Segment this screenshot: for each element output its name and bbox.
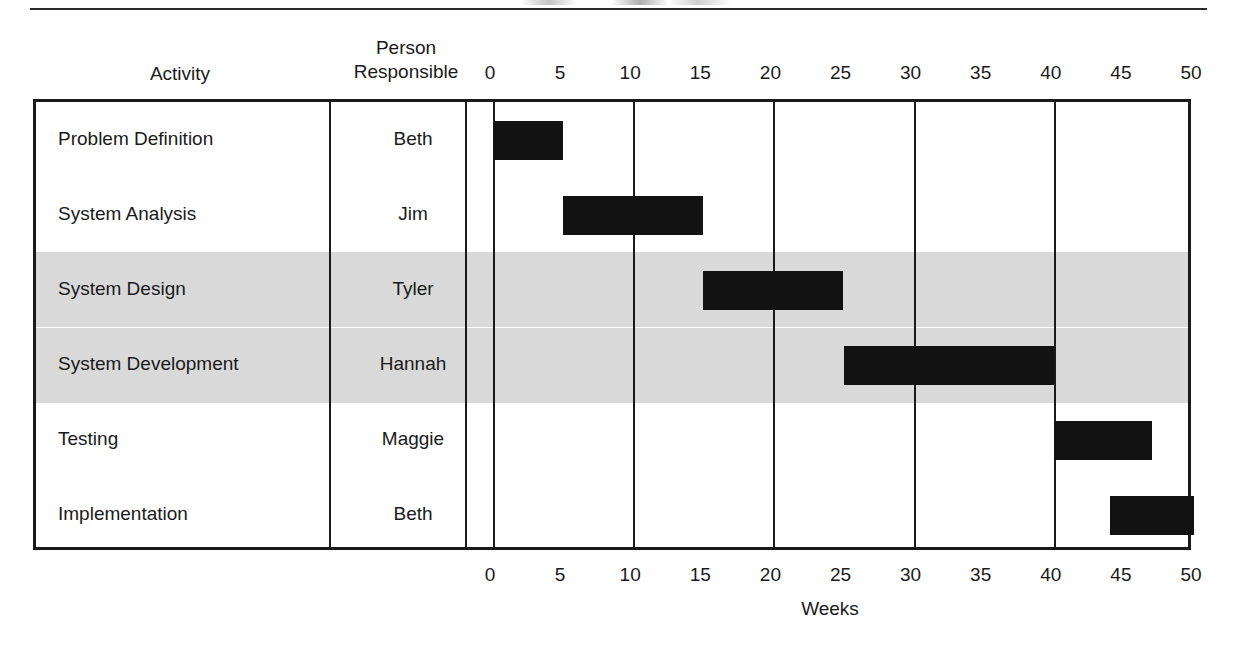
axis-tick-15: 15 — [680, 60, 720, 86]
row-activity-label: Testing — [58, 428, 338, 450]
row-person-label: Hannah — [332, 353, 494, 375]
axis-tick-10: 10 — [610, 60, 650, 86]
axis-tick-20: 20 — [750, 562, 790, 588]
page-top-rule — [30, 8, 1207, 10]
row-activity-label: Implementation — [58, 503, 338, 525]
axis-tick-40: 40 — [1031, 60, 1071, 86]
row-person-label: Jim — [332, 203, 494, 225]
table-row: System DevelopmentHannah — [36, 328, 1188, 403]
cutoff-caption-fragment — [520, 0, 760, 5]
gantt-bar — [1110, 496, 1194, 535]
row-person-label: Tyler — [332, 278, 494, 300]
table-row: TestingMaggie — [36, 403, 1188, 478]
axis-tick-25: 25 — [821, 60, 861, 86]
axis-tick-0: 0 — [470, 562, 510, 588]
gantt-bar — [1054, 421, 1152, 460]
axis-tick-10: 10 — [610, 562, 650, 588]
axis-tick-40: 40 — [1031, 562, 1071, 588]
axis-tick-35: 35 — [961, 562, 1001, 588]
gantt-bar — [493, 121, 563, 160]
axis-tick-0: 0 — [470, 60, 510, 86]
axis-ticks-top: 05101520253035404550 — [0, 60, 1235, 86]
gantt-bar — [563, 196, 703, 235]
axis-tick-25: 25 — [821, 562, 861, 588]
row-person-label: Maggie — [332, 428, 494, 450]
axis-ticks-bottom: 05101520253035404550 — [0, 562, 1235, 588]
row-activity-label: System Design — [58, 278, 338, 300]
table-row: System AnalysisJim — [36, 177, 1188, 252]
axis-tick-50: 50 — [1171, 60, 1211, 86]
gantt-chart-page: Activity Person Responsible 051015202530… — [0, 0, 1235, 651]
row-person-label: Beth — [332, 503, 494, 525]
axis-tick-20: 20 — [750, 60, 790, 86]
axis-tick-35: 35 — [961, 60, 1001, 86]
gantt-bar — [703, 271, 843, 310]
column-header-person-line1: Person — [330, 36, 482, 60]
gantt-bar — [844, 346, 1054, 385]
axis-tick-30: 30 — [891, 562, 931, 588]
axis-tick-15: 15 — [680, 562, 720, 588]
row-person-label: Beth — [332, 128, 494, 150]
axis-title-weeks: Weeks — [740, 598, 920, 620]
row-activity-label: Problem Definition — [58, 128, 338, 150]
table-row: Problem DefinitionBeth — [36, 102, 1188, 177]
axis-tick-5: 5 — [540, 562, 580, 588]
axis-tick-30: 30 — [891, 60, 931, 86]
row-activity-label: System Development — [58, 353, 338, 375]
axis-tick-50: 50 — [1171, 562, 1211, 588]
row-activity-label: System Analysis — [58, 203, 338, 225]
table-row: ImplementationBeth — [36, 478, 1188, 553]
axis-tick-5: 5 — [540, 60, 580, 86]
gantt-table-frame: Problem DefinitionBethSystem AnalysisJim… — [33, 99, 1191, 550]
axis-tick-45: 45 — [1101, 60, 1141, 86]
axis-tick-45: 45 — [1101, 562, 1141, 588]
table-row: System DesignTyler — [36, 252, 1188, 327]
